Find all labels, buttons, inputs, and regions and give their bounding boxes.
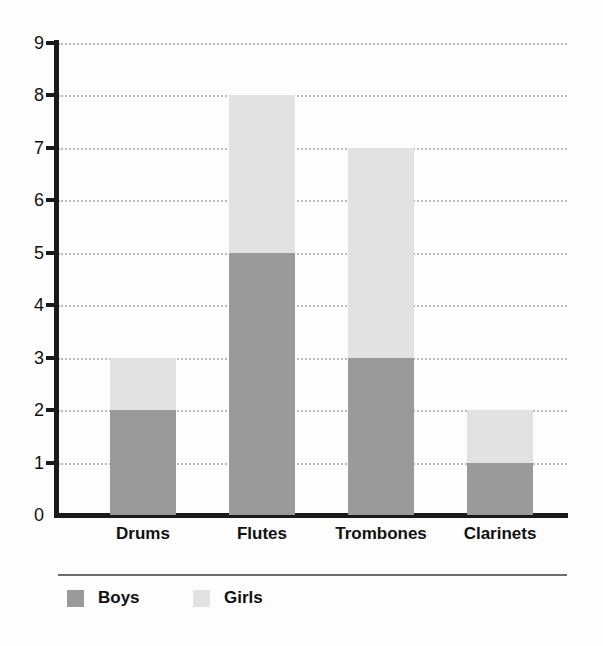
y-tick-label-2: 2 bbox=[16, 401, 44, 419]
y-tick-label-8: 8 bbox=[16, 86, 44, 104]
y-axis-line bbox=[54, 40, 59, 518]
y-tick-label-0: 0 bbox=[16, 506, 44, 524]
y-tick-mark-7 bbox=[46, 146, 55, 150]
stacked-bar-chart: 0123456789 DrumsFlutesTrombonesClarinets… bbox=[0, 0, 603, 646]
y-axis-tick-labels: 0123456789 bbox=[0, 0, 44, 646]
y-tick-mark-2 bbox=[46, 408, 55, 412]
x-tick-label-clarinets: Clarinets bbox=[427, 524, 573, 544]
legend-entry-girls: Girls bbox=[193, 588, 263, 608]
bar-group-drums bbox=[110, 43, 176, 515]
legend-label-girls: Girls bbox=[224, 588, 263, 608]
legend-label-boys: Boys bbox=[98, 588, 140, 608]
y-tick-label-4: 4 bbox=[16, 296, 44, 314]
bar-segment-trombones-girls bbox=[348, 148, 414, 358]
bar-segment-flutes-girls bbox=[229, 95, 295, 252]
y-tick-mark-3 bbox=[46, 356, 55, 360]
bar-group-trombones bbox=[348, 43, 414, 515]
bar-segment-flutes-boys bbox=[229, 253, 295, 515]
legend-entry-boys: Boys bbox=[67, 588, 140, 608]
y-tick-mark-8 bbox=[46, 93, 55, 97]
bar-group-flutes bbox=[229, 43, 295, 515]
y-tick-label-3: 3 bbox=[16, 349, 44, 367]
bar-segment-drums-girls bbox=[110, 358, 176, 410]
y-tick-label-5: 5 bbox=[16, 244, 44, 262]
bar-segment-clarinets-girls bbox=[467, 410, 533, 462]
y-tick-label-9: 9 bbox=[16, 34, 44, 52]
y-tick-mark-4 bbox=[46, 303, 55, 307]
y-tick-mark-5 bbox=[46, 251, 55, 255]
bar-group-clarinets bbox=[467, 43, 533, 515]
y-tick-label-6: 6 bbox=[16, 191, 44, 209]
legend-swatch-boys bbox=[67, 590, 84, 607]
y-tick-mark-1 bbox=[46, 461, 55, 465]
bar-segment-trombones-boys bbox=[348, 358, 414, 515]
legend-divider bbox=[58, 574, 567, 576]
y-tick-label-7: 7 bbox=[16, 139, 44, 157]
legend-swatch-girls bbox=[193, 590, 210, 607]
y-tick-mark-6 bbox=[46, 198, 55, 202]
y-tick-label-1: 1 bbox=[16, 454, 44, 472]
bar-segment-drums-boys bbox=[110, 410, 176, 515]
bar-segment-clarinets-boys bbox=[467, 463, 533, 515]
y-tick-mark-9 bbox=[46, 41, 55, 45]
